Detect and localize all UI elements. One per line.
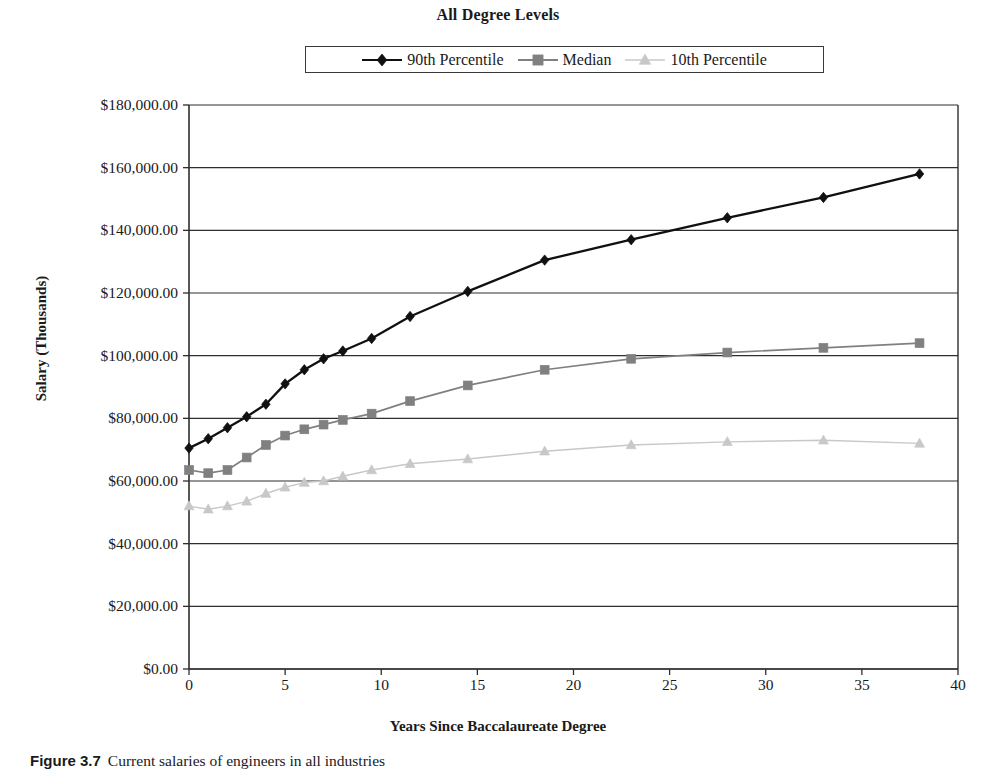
figure-caption-text: Current salaries of engineers in all ind… [108, 752, 385, 769]
figure-number: Figure 3.7 [30, 752, 101, 769]
figure-caption: Figure 3.7Current salaries of engineers … [30, 752, 385, 770]
figure-root: All Degree Levels 90th PercentileMedian1… [0, 0, 996, 780]
plot-area [0, 0, 996, 780]
